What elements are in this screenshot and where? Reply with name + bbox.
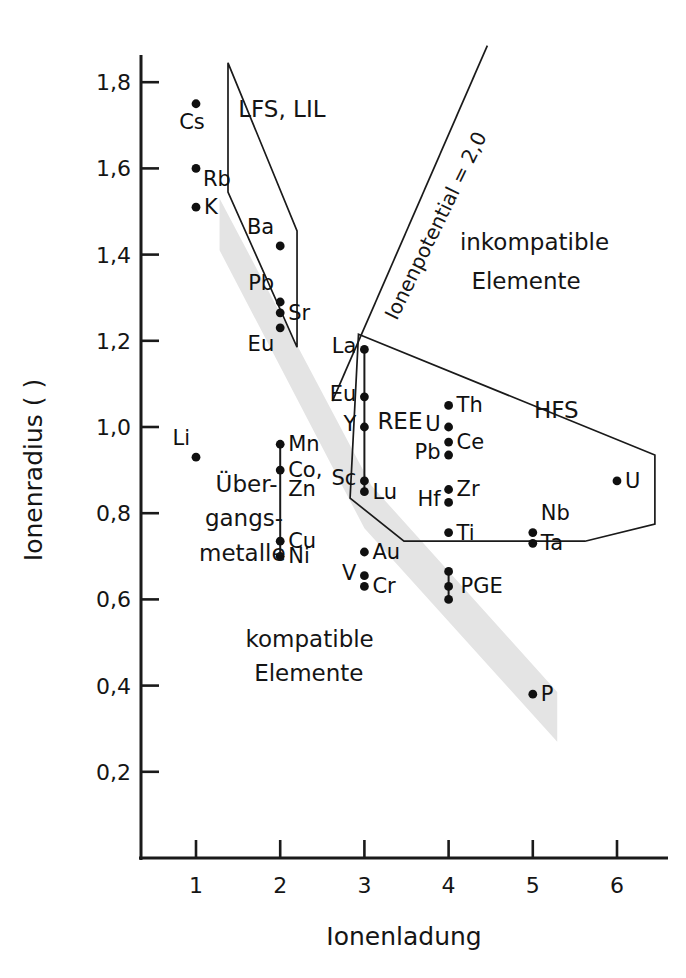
x-axis-tick-labels: 123456	[189, 873, 624, 898]
data-point-Ta	[528, 539, 537, 548]
y-tick-label: 1,8	[96, 70, 131, 95]
data-point-Ce	[444, 438, 453, 447]
group-label-REE: REE	[377, 408, 422, 434]
annotation-uebergangsmetalle-3: metalle	[199, 540, 286, 566]
y-tick-label: 1,2	[96, 329, 131, 354]
y-tick-label: 0,4	[96, 674, 131, 699]
annotation-lfs-lil: LFS, LIL	[238, 96, 325, 122]
y-tick-label: 1,0	[96, 415, 131, 440]
point-label-Zr: Zr	[457, 477, 480, 501]
data-point-Mn	[276, 440, 285, 449]
point-label-La: La	[332, 334, 357, 358]
data-point-Ba	[276, 242, 285, 251]
point-label-P: P	[541, 682, 554, 706]
y-axis-tick-labels: 0,20,40,60,81,01,21,41,61,8	[96, 70, 131, 785]
annotation-ionenpotential: Ionenpotential = 2,0	[380, 128, 492, 324]
point-label-Hf: Hf	[417, 487, 441, 511]
y-tick-label: 1,4	[96, 243, 131, 268]
point-label-PGE: PGE	[461, 574, 503, 598]
region-annotations: LFS, LILHFSinkompatibleElementekompatibl…	[199, 96, 609, 687]
group-labels: REE	[377, 408, 422, 434]
data-point-P	[528, 690, 537, 699]
data-point-PGE-endpoint	[444, 595, 453, 604]
point-label-Ti: Ti	[456, 521, 475, 545]
point-label-Sr: Sr	[288, 301, 310, 325]
data-point-Li	[192, 453, 201, 462]
point-label-Zn: Zn	[288, 477, 316, 501]
point-label-K: K	[204, 195, 219, 219]
data-point-Nb	[528, 528, 537, 537]
data-point-Sr	[276, 308, 285, 317]
data-point-Lu	[360, 487, 369, 496]
x-axis-ticks	[196, 840, 617, 858]
x-tick-label: 6	[610, 873, 624, 898]
annotation-inkompatible-1: inkompatible	[460, 229, 609, 255]
data-point-V	[360, 571, 369, 580]
data-point-Eu	[360, 392, 369, 401]
point-label-Ba: Ba	[247, 215, 274, 239]
point-label-Rb: Rb	[203, 167, 231, 191]
point-label-Y: Y	[343, 412, 357, 436]
x-tick-label: 1	[189, 873, 203, 898]
data-point-Y	[360, 423, 369, 432]
point-label-Eu: Eu	[330, 382, 357, 406]
point-label-Au: Au	[372, 540, 400, 564]
x-tick-label: 4	[442, 873, 456, 898]
data-point-PGE-endpoint	[444, 567, 453, 576]
annotation-kompatible-1: kompatible	[246, 626, 374, 652]
point-label-Sc: Sc	[332, 466, 357, 490]
point-label-Nb: Nb	[541, 501, 570, 525]
point-label-U: U	[425, 412, 440, 436]
y-axis-title: Ionenradius ( )	[19, 379, 48, 561]
x-axis-title: Ionenladung	[326, 922, 481, 951]
data-point-Au	[360, 548, 369, 557]
y-tick-label: 1,6	[96, 156, 131, 181]
data-point-Zr	[444, 485, 453, 494]
data-point-Rb	[192, 164, 201, 173]
hfs-field	[350, 334, 655, 541]
annotation-uebergangsmetalle-1: Über-	[216, 470, 278, 497]
y-tick-label: 0,6	[96, 587, 131, 612]
x-tick-label: 5	[526, 873, 540, 898]
y-tick-label: 0,2	[96, 760, 131, 785]
ionic-radius-charge-plot: 0,20,40,60,81,01,21,41,61,8 123456 Ionen…	[0, 0, 686, 978]
data-point-U	[613, 476, 622, 485]
annotation-uebergangsmetalle-2: gangs-	[205, 505, 283, 531]
data-point-Cr	[360, 582, 369, 591]
data-point-K	[192, 203, 201, 212]
chart-figure: 0,20,40,60,81,01,21,41,61,8 123456 Ionen…	[0, 0, 686, 978]
point-label-Mn: Mn	[288, 432, 319, 456]
x-tick-label: 2	[273, 873, 287, 898]
point-label-Ta: Ta	[540, 531, 563, 555]
point-label-Ni: Ni	[288, 544, 310, 568]
point-label-V: V	[342, 561, 357, 585]
point-label-Li: Li	[172, 426, 190, 450]
point-label-Cr: Cr	[372, 574, 396, 598]
data-point-U	[444, 423, 453, 432]
data-point-La	[360, 345, 369, 354]
annotation-inkompatible-2: Elemente	[471, 268, 580, 294]
point-label-Cs: Cs	[179, 110, 205, 134]
y-tick-label: 0,8	[96, 501, 131, 526]
point-label-Th: Th	[456, 393, 483, 417]
data-point-PGE	[444, 582, 453, 591]
data-point-Hf	[444, 498, 453, 507]
x-tick-label: 3	[357, 873, 371, 898]
point-label-Pb: Pb	[248, 271, 274, 295]
annotation-hfs: HFS	[534, 397, 579, 423]
y-axis-ticks	[141, 82, 159, 772]
data-point-Th	[444, 401, 453, 410]
point-label-U: U	[625, 469, 640, 493]
data-point-Cs	[192, 99, 201, 108]
point-label-Eu: Eu	[248, 332, 275, 356]
point-label-Ce: Ce	[457, 430, 485, 454]
point-label-Pb: Pb	[415, 440, 441, 464]
data-point-Ti	[444, 528, 453, 537]
data-point-Sc	[360, 476, 369, 485]
data-point-Pb	[276, 298, 285, 307]
annotation-kompatible-2: Elemente	[254, 660, 363, 686]
data-point-Pb	[444, 451, 453, 460]
point-label-Lu: Lu	[372, 480, 397, 504]
data-point-Eu	[276, 323, 285, 332]
